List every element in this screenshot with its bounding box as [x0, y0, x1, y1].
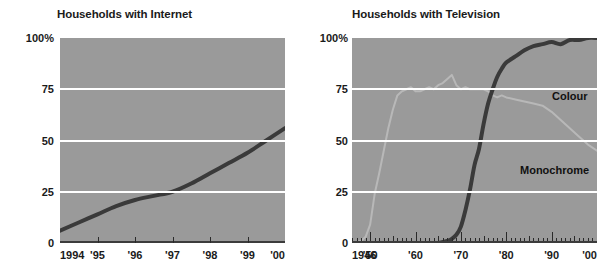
y-tick-label: 75	[42, 83, 54, 95]
y-tick-label: 50	[42, 135, 54, 147]
x-tick-label: '00	[270, 249, 285, 261]
x-tick-label: 1994	[60, 249, 84, 261]
gridline	[352, 140, 597, 142]
page-title-internet: Households with Internet	[57, 8, 192, 20]
x-tick-label: '98	[203, 249, 218, 261]
plot-area-television: Colour Monochrome	[352, 38, 597, 243]
x-tick-label: '99	[240, 249, 255, 261]
x-tick-mark	[135, 237, 136, 243]
x-tick-label: '97	[165, 249, 180, 261]
y-tick-label: 100%	[26, 32, 54, 44]
y-tick-label: 25	[42, 186, 54, 198]
y-tick-label: 0	[48, 237, 54, 249]
x-axis-labels-television: 1946'50'60'70'80'90'00	[352, 249, 597, 267]
x-tick-mark	[248, 237, 249, 243]
gridline	[60, 88, 285, 90]
page-title-television: Households with Television	[352, 8, 500, 20]
x-tick-mark	[173, 237, 174, 243]
x-axis-labels-internet: 1994'95'96'97'98'99'00	[60, 249, 285, 267]
gridline	[352, 88, 597, 90]
gridline	[352, 191, 597, 193]
x-axis-baseline	[352, 241, 597, 243]
x-tick-label: '50	[363, 249, 378, 261]
x-tick-mark	[210, 237, 211, 243]
x-tick-label: '80	[499, 249, 514, 261]
x-tick-label: '70	[453, 249, 468, 261]
y-tick-label: 0	[342, 237, 348, 249]
x-tick-label: '96	[128, 249, 143, 261]
x-tick-label: '00	[582, 249, 597, 261]
gridline	[60, 140, 285, 142]
chart-panel-internet: Households with Internet 100%7550250 199…	[0, 0, 306, 279]
chart-panel-television: Households with Television 100%7550250 C…	[306, 0, 613, 279]
y-tick-label: 25	[336, 186, 348, 198]
y-tick-label: 50	[336, 135, 348, 147]
x-tick-label: '95	[90, 249, 105, 261]
gridline	[60, 191, 285, 193]
y-tick-label: 75	[336, 83, 348, 95]
x-tick-label: '60	[408, 249, 423, 261]
plot-area-internet	[60, 38, 285, 243]
y-tick-label: 100%	[320, 32, 348, 44]
x-tick-mark	[98, 237, 99, 243]
x-tick-label: '90	[544, 249, 559, 261]
